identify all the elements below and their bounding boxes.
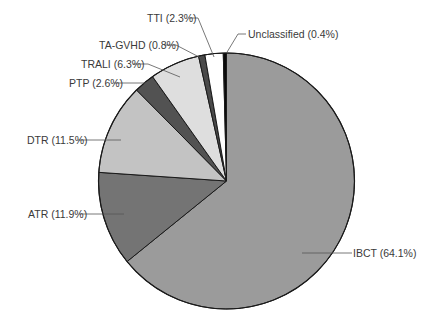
label-trali: TRALI (6.3%) bbox=[81, 58, 145, 70]
leader-line-unclassified bbox=[227, 34, 247, 53]
label-atr: ATR (11.9%) bbox=[28, 208, 87, 220]
label-ta-gvhd: TA-GVHD (0.8%) bbox=[99, 39, 179, 51]
label-ibct: IBCT (64.1%) bbox=[353, 247, 416, 259]
label-tti: TTI (2.3%) bbox=[147, 12, 197, 24]
label-unclassified: Unclassified (0.4%) bbox=[248, 28, 338, 40]
pie-chart: TTI (2.3%) Unclassified (0.4%) TA-GVHD (… bbox=[0, 0, 427, 324]
label-dtr: DTR (11.5%) bbox=[27, 134, 87, 146]
label-ptp: PTP (2.6%) bbox=[69, 77, 123, 89]
pie-slices bbox=[99, 53, 355, 309]
